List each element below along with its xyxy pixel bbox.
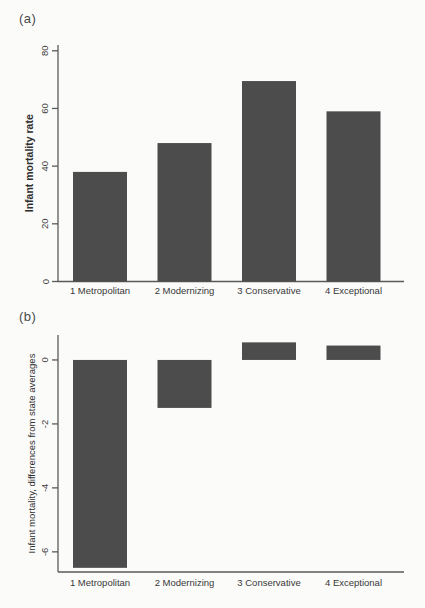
- x-category-label-4-exceptional: 4 Exceptional: [325, 285, 382, 296]
- x-category-label-3-conservative: 3 Conservative: [237, 577, 300, 588]
- panel-b: (b) 0-2-4-61 Metropolitan2 Modernizing3 …: [0, 305, 425, 608]
- bar-4-exceptional: [327, 346, 381, 360]
- panel-b-chart-svg: 0-2-4-61 Metropolitan2 Modernizing3 Cons…: [0, 305, 425, 608]
- y-tick-label: 0: [40, 279, 51, 284]
- bar-3-conservative: [242, 81, 296, 281]
- y-axis-title: Infant mortality, differences from state…: [26, 353, 37, 553]
- x-category-label-3-conservative: 3 Conservative: [237, 285, 300, 296]
- y-tick-label: -4: [40, 484, 51, 492]
- bar-1-metropolitan: [73, 172, 127, 282]
- panel-b-chart: 0-2-4-61 Metropolitan2 Modernizing3 Cons…: [0, 305, 425, 608]
- y-tick-label: 0: [40, 357, 51, 362]
- y-tick-label: 60: [40, 103, 51, 114]
- panel-a-chart: 0204060801 Metropolitan2 Modernizing3 Co…: [0, 0, 425, 305]
- y-tick-label: 80: [40, 45, 51, 56]
- x-category-label-1-metropolitan: 1 Metropolitan: [70, 577, 130, 588]
- bar-3-conservative: [242, 342, 296, 360]
- y-axis-title: Infant mortality rate: [23, 114, 35, 212]
- y-tick-label: -6: [40, 548, 51, 556]
- x-category-label-2-modernizing: 2 Modernizing: [155, 577, 215, 588]
- y-tick-label: -2: [40, 420, 51, 428]
- bar-2-modernizing: [158, 360, 212, 408]
- figure-page: (a) 0204060801 Metropolitan2 Modernizing…: [0, 0, 425, 608]
- panel-a-chart-svg: 0204060801 Metropolitan2 Modernizing3 Co…: [0, 0, 425, 305]
- panel-a: (a) 0204060801 Metropolitan2 Modernizing…: [0, 0, 425, 305]
- x-category-label-2-modernizing: 2 Modernizing: [155, 285, 215, 296]
- y-tick-label: 40: [40, 161, 51, 172]
- bar-2-modernizing: [158, 143, 212, 281]
- y-tick-label: 20: [40, 219, 51, 230]
- bar-4-exceptional: [327, 111, 381, 281]
- x-category-label-4-exceptional: 4 Exceptional: [325, 577, 382, 588]
- bar-1-metropolitan: [73, 360, 127, 568]
- x-category-label-1-metropolitan: 1 Metropolitan: [70, 285, 130, 296]
